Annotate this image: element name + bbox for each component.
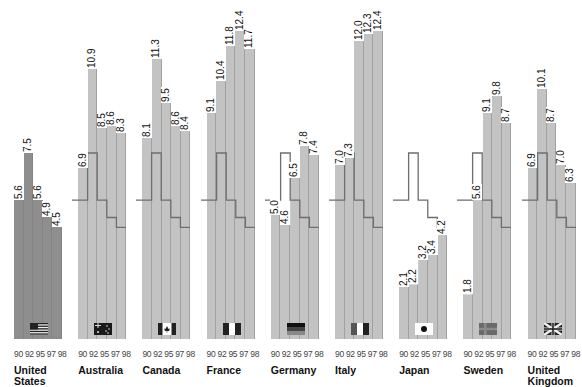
value-label: 1.8 bbox=[463, 278, 473, 294]
value-label: 7.5 bbox=[23, 137, 33, 153]
value-label: 9.5 bbox=[161, 87, 171, 103]
japan-flag-icon bbox=[415, 321, 433, 333]
value-label: 5.6 bbox=[33, 184, 43, 200]
value-label: 9.1 bbox=[206, 97, 216, 113]
year-axis-labels: 90 92 95 97 98 bbox=[271, 349, 324, 359]
country-name: France bbox=[207, 365, 267, 376]
value-label: 9.8 bbox=[492, 80, 502, 96]
bar-95 bbox=[33, 200, 43, 339]
value-label: 3.4 bbox=[427, 239, 437, 255]
country-name: Canada bbox=[142, 365, 202, 376]
value-label: 4.6 bbox=[280, 209, 290, 225]
germany-flag-icon bbox=[287, 321, 305, 333]
country-name: Germany bbox=[271, 365, 331, 376]
value-label: 8.7 bbox=[546, 107, 556, 123]
country-group-italy: 7.07.312.012.312.490 92 95 97 98Italy bbox=[335, 0, 385, 386]
year-axis-labels: 90 92 95 97 98 bbox=[14, 349, 67, 359]
year-axis-labels: 90 92 95 97 98 bbox=[399, 349, 452, 359]
year-axis-labels: 90 92 95 97 98 bbox=[463, 349, 516, 359]
year-axis-labels: 90 92 95 97 98 bbox=[78, 349, 131, 359]
canada-flag-icon bbox=[158, 321, 176, 333]
year-axis-labels: 90 92 95 97 98 bbox=[142, 349, 195, 359]
year-axis-labels: 90 92 95 97 98 bbox=[528, 349, 581, 359]
value-label: 9.1 bbox=[482, 97, 492, 113]
value-label: 10.4 bbox=[216, 60, 226, 81]
value-label: 6.9 bbox=[78, 152, 88, 168]
value-label: 12.4 bbox=[373, 10, 383, 31]
country-name: Japan bbox=[399, 365, 459, 376]
sweden-flag-icon bbox=[479, 321, 497, 333]
value-label: 7.3 bbox=[344, 142, 354, 158]
country-group-japan: 2.12.23.23.44.290 92 95 97 98Japan bbox=[399, 0, 449, 386]
value-label: 11.7 bbox=[244, 28, 254, 49]
country-group-united-states: 5.67.55.64.94.590 92 95 97 98UnitedState… bbox=[14, 0, 64, 386]
country-name: UnitedKingdom bbox=[528, 365, 582, 387]
country-name: Australia bbox=[78, 365, 138, 376]
bar-92 bbox=[24, 153, 34, 339]
uk-flag-icon bbox=[544, 321, 562, 333]
year-axis-labels: 90 92 95 97 98 bbox=[335, 349, 388, 359]
australia-flag-icon bbox=[94, 321, 112, 333]
value-label: 5.6 bbox=[14, 184, 24, 200]
value-label: 7.0 bbox=[556, 149, 566, 165]
country-group-sweden: 1.85.69.19.88.790 92 95 97 98Sweden bbox=[463, 0, 513, 386]
value-label: 10.1 bbox=[537, 67, 547, 88]
country-group-united-kingdom: 6.910.18.77.06.390 92 95 97 98UnitedKing… bbox=[528, 0, 578, 386]
value-label: 4.5 bbox=[52, 211, 62, 227]
bar-90 bbox=[14, 200, 24, 339]
value-label: 6.5 bbox=[289, 162, 299, 178]
value-label: 8.3 bbox=[116, 117, 126, 133]
value-label: 11.3 bbox=[151, 38, 161, 59]
france-flag-icon bbox=[223, 321, 241, 333]
country-name: UnitedStates bbox=[14, 365, 74, 387]
country-group-germany: 5.04.66.57.87.490 92 95 97 98Germany bbox=[271, 0, 321, 386]
value-label: 5.6 bbox=[472, 184, 482, 200]
italy-flag-icon bbox=[351, 321, 369, 333]
us-flag-icon bbox=[30, 321, 48, 333]
value-label: 8.7 bbox=[501, 107, 511, 123]
value-label: 6.9 bbox=[527, 152, 537, 168]
value-label: 6.3 bbox=[565, 167, 575, 183]
country-group-canada: 8.111.39.58.68.490 92 95 97 98Canada bbox=[142, 0, 192, 386]
value-label: 8.4 bbox=[180, 115, 190, 131]
value-label: 10.9 bbox=[87, 47, 97, 68]
country-name: Sweden bbox=[463, 365, 523, 376]
value-label: 8.1 bbox=[142, 122, 152, 138]
value-label: 2.2 bbox=[408, 269, 418, 285]
country-name: Italy bbox=[335, 365, 395, 376]
country-group-france: 9.110.411.812.411.790 92 95 97 98France bbox=[207, 0, 257, 386]
bar-98 bbox=[52, 227, 62, 339]
value-label: 7.4 bbox=[309, 140, 319, 156]
country-group-australia: 6.910.98.58.68.390 92 95 97 98Australia bbox=[78, 0, 128, 386]
value-label: 4.2 bbox=[437, 219, 447, 235]
year-axis-labels: 90 92 95 97 98 bbox=[207, 349, 260, 359]
